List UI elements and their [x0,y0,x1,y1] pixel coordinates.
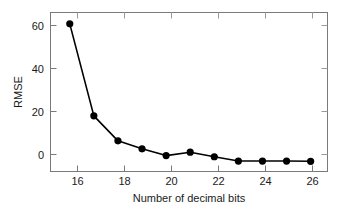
x-tick-label-26: 26 [306,175,318,187]
y-tick-label-60: 60 [32,20,44,32]
data-point [211,153,218,160]
y-tick-label-40: 40 [32,63,44,75]
y-tick-label-20: 20 [32,106,44,118]
data-point [307,158,314,165]
y-tick-label-0: 0 [38,149,44,161]
x-tick-label-20: 20 [165,175,177,187]
data-point [283,157,290,164]
data-point [187,149,194,156]
data-point [259,157,266,164]
x-tick-label-16: 16 [71,175,83,187]
chart-figure: 0 20 40 60 16 18 20 22 24 26 Number of d… [0,0,349,210]
x-tick-label-22: 22 [212,175,224,187]
data-point [138,145,145,152]
data-point [90,112,97,119]
x-tick-label-24: 24 [259,175,271,187]
data-point [114,137,121,144]
data-point [235,157,242,164]
x-axis-title: Number of decimal bits [133,192,246,204]
rmse-vs-decimal-bits-line-chart: 0 20 40 60 16 18 20 22 24 26 Number of d… [0,0,349,210]
x-tick-label-18: 18 [118,175,130,187]
y-axis-title: RMSE [12,76,24,108]
data-point [66,20,73,27]
data-point [163,152,170,159]
